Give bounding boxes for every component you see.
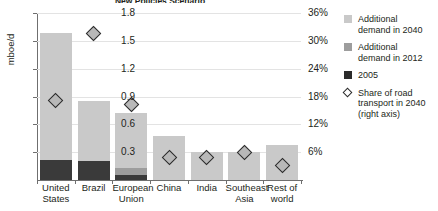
legend-label: demand in 2012 (358, 53, 438, 64)
square-swatch-dark (344, 71, 352, 79)
legend-item[interactable]: Additionaldemand in 2012 (344, 42, 438, 63)
category-label-line: United (37, 183, 75, 194)
category-label: Rest ofworld (263, 183, 301, 204)
gridline (37, 97, 301, 98)
category-label: Brazil (75, 183, 113, 194)
gridline (37, 41, 301, 42)
plot-area (37, 13, 301, 180)
y2-tick-label: 30% (308, 35, 342, 46)
category-label: SoutheastAsia (226, 183, 264, 204)
square-swatch-mid (344, 43, 352, 51)
y-tick-label: 1.5 (103, 35, 135, 46)
y2-tick-label: 24% (308, 63, 342, 74)
legend-label: Additional (358, 42, 438, 53)
category-label-line: European (112, 183, 150, 194)
tick-mark (33, 152, 37, 153)
y2-tick-label: 36% (308, 7, 342, 18)
category-label-line: Union (112, 194, 150, 205)
y-tick-label: 0.3 (103, 146, 135, 157)
y-tick-label: 1.2 (103, 63, 135, 74)
category-label: EuropeanUnion (112, 183, 150, 204)
marker-diamond[interactable] (86, 26, 102, 42)
legend-label: Share of road (358, 88, 438, 99)
category-label-line: States (37, 194, 75, 205)
y-tick-label: 0.6 (103, 118, 135, 129)
gridline (37, 69, 301, 70)
bar-segment (115, 168, 147, 175)
gridline (37, 13, 301, 14)
legend-label: demand in 2040 (358, 25, 438, 36)
tick-mark (33, 41, 37, 42)
y2-tick-label: 6% (308, 146, 342, 157)
tick-mark (33, 69, 37, 70)
category-label-line: China (150, 183, 188, 194)
category-label-line: Southeast (226, 183, 264, 194)
tick-mark (33, 124, 37, 125)
y-tick-label: 1.8 (103, 7, 135, 18)
category-label-line: world (263, 194, 301, 205)
category-label: India (188, 183, 226, 194)
bar-segment (78, 161, 110, 180)
category-tick (301, 180, 302, 184)
chart-legend: Additionaldemand in 2040Additionaldemand… (344, 14, 438, 126)
legend-item[interactable]: 2005 (344, 70, 438, 81)
square-swatch-light (344, 15, 352, 23)
category-label: China (150, 183, 188, 194)
legend-label: Additional (358, 14, 438, 25)
y2-tick-label: 12% (308, 118, 342, 129)
y-tick-label: 0.9 (103, 91, 135, 102)
category-label-line: India (188, 183, 226, 194)
category-label-line: Brazil (75, 183, 113, 194)
tick-mark (33, 97, 37, 98)
y2-tick-label: 18% (308, 91, 342, 102)
diamond-marker (343, 87, 353, 97)
bar-segment (40, 160, 72, 180)
bar-segment (115, 175, 147, 180)
legend-item[interactable]: Share of roadtransport in 2040 (right ax… (344, 88, 438, 120)
category-label-line: Rest of (263, 183, 301, 194)
chart-title: New Policies Scenario (60, 0, 260, 3)
category-label: UnitedStates (37, 183, 75, 204)
category-label-line: Asia (226, 194, 264, 205)
legend-label: transport in 2040 (right axis) (358, 98, 438, 119)
tick-mark (33, 13, 37, 14)
legend-label: 2005 (358, 70, 438, 81)
bar-brazil[interactable] (78, 101, 110, 180)
y-axis-label: mboe/d (5, 20, 16, 80)
legend-item[interactable]: Additionaldemand in 2040 (344, 14, 438, 35)
chart-container: New Policies Scenario mboe/d 0.30.60.91.… (0, 0, 438, 211)
